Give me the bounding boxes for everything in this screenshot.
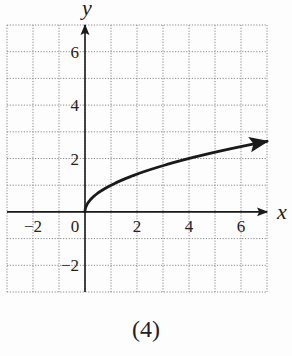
x-tick-label: 0: [71, 217, 80, 236]
y-tick-label: 4: [71, 96, 80, 115]
y-tick-label: 6: [71, 43, 80, 62]
y-tick-label: −2: [61, 256, 79, 275]
y-tick-label: 2: [71, 150, 80, 169]
figure-caption: (4): [0, 316, 292, 343]
x-tick-label: −2: [24, 217, 42, 236]
graph: −20246−2246xy: [0, 0, 292, 310]
x-tick-label: 2: [133, 217, 142, 236]
y-axis-label: y: [80, 0, 92, 20]
x-axis-label: x: [276, 199, 287, 224]
x-tick-label: 4: [185, 217, 194, 236]
x-tick-label: 6: [237, 217, 246, 236]
curve-sqrt-x: [85, 141, 267, 212]
